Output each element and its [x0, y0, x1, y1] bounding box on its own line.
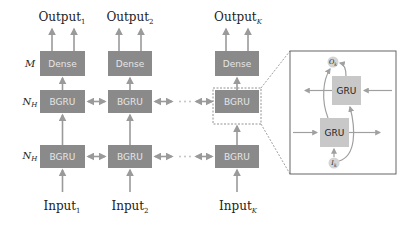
ellipsis-lower: [179, 156, 191, 158]
detail-panel-frame: [290, 51, 396, 174]
gru-forward-label: GRU: [325, 128, 345, 138]
input-label-1: Input1: [43, 199, 80, 215]
zoom-connector-line: [261, 124, 290, 174]
bgru-lower-label-1: BGRU: [50, 152, 76, 162]
row-label-bgru-upper: NH: [22, 96, 39, 109]
dense-label-2: Dense: [116, 59, 145, 69]
row-label-dense: M: [24, 58, 36, 69]
bgru-lower-label-k: BGRU: [224, 152, 250, 162]
column-1: Output1 Dense BGRU BGRU Input1: [38, 10, 85, 215]
column-2: Output2 Dense BGRU BGRU Input2: [106, 10, 153, 215]
row-label-bgru-lower: NH: [22, 150, 39, 163]
zoom-connector-line: [261, 51, 290, 88]
input-label-k: InputK: [219, 199, 258, 215]
output-label-1: Output1: [38, 10, 85, 26]
bgru-lower-label-2: BGRU: [117, 152, 143, 162]
dense-label-k: Dense: [223, 59, 252, 69]
bgru-architecture-diagram: M NH NH Output1 Dense BGRU BGRU Input1 O…: [0, 0, 416, 227]
bgru-upper-label-1: BGRU: [50, 97, 76, 107]
bgru-detail-panel: GRU GRU Ok Ik: [290, 51, 396, 174]
ellipsis-upper: [179, 101, 191, 103]
gru-backward-label: GRU: [337, 86, 357, 96]
input-label-2: Input2: [111, 199, 148, 215]
output-label-k: OutputK: [214, 10, 263, 26]
column-k: OutputK Dense BGRU BGRU InputK: [213, 10, 263, 215]
dense-label-1: Dense: [48, 59, 77, 69]
bgru-upper-label-2: BGRU: [117, 97, 143, 107]
bgru-upper-label-k: BGRU: [224, 97, 250, 107]
output-label-2: Output2: [106, 10, 153, 26]
